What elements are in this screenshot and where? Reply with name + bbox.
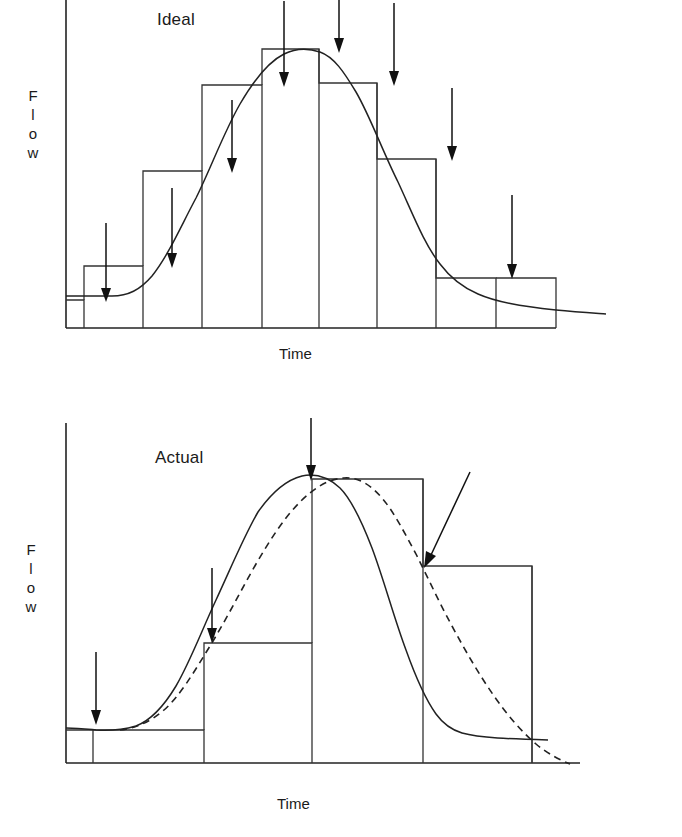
bar-4 [262,49,319,328]
bar-5 [319,49,377,328]
bar-1 [84,266,143,328]
bar-3 [312,479,423,763]
chart-panel-actual: Actual F l o w Time [0,400,682,837]
panel-title-actual: Actual [155,448,203,468]
chart-svg-ideal [0,0,682,400]
y-axis-label-letter: l [20,105,46,124]
bar-4 [423,479,532,763]
chart-panel-ideal: Ideal F l o w Time [0,0,682,400]
annotation-arrow-6 [447,88,457,161]
annotation-arrow-4 [334,0,344,53]
annotation-arrow-1 [207,568,217,643]
bar-0 [66,300,84,328]
bar-1 [93,730,204,763]
annotation-arrow-7 [507,195,517,279]
annotation-arrow-0 [101,223,111,302]
arrow-group-ideal [101,0,517,302]
bar-7 [436,159,496,328]
annotation-arrow-3 [279,1,289,87]
annotation-arrow-1 [167,188,177,268]
y-axis-label-letter: o [20,124,46,143]
x-axis-label-ideal: Time [279,345,312,362]
flow-diagram-figure: Ideal F l o w Time [0,0,682,837]
arrow-group-actual [91,418,470,725]
annotation-arrow-3 [424,472,470,568]
bar-group-ideal [66,49,556,328]
annotation-arrow-5 [389,3,399,86]
y-axis-label-ideal: F l o w [20,86,46,162]
ideal-demand-curve [66,49,606,314]
bar-2 [204,643,312,763]
annotation-arrow-0 [91,652,101,725]
planned-ideal-curve [120,478,570,764]
y-axis-label-actual: F l o w [18,540,44,616]
y-axis-label-letter: o [18,578,44,597]
y-axis-label-letter: F [20,86,46,105]
bar-6 [377,83,436,328]
y-axis-label-letter: F [18,540,44,559]
y-axis-label-letter: w [18,597,44,616]
bar-group-actual [66,479,532,763]
chart-svg-actual [0,400,682,837]
x-axis-label-actual: Time [277,795,310,812]
actual-flow-curve [66,475,548,740]
y-axis-label-letter: w [20,143,46,162]
panel-title-ideal: Ideal [157,10,195,30]
bar-0 [66,730,93,763]
y-axis-label-letter: l [18,559,44,578]
annotation-arrow-2 [306,418,316,481]
